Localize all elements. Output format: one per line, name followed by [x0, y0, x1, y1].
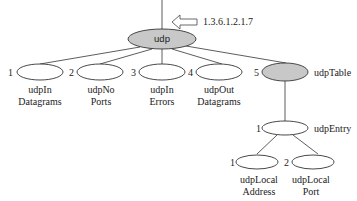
node-label-line1: udpNo	[87, 84, 114, 95]
left-arrow-icon	[172, 15, 197, 29]
node-udpOutDatagrams: 4 udpOut Datagrams	[188, 64, 242, 107]
node-oval	[262, 63, 308, 81]
node-udpNoPorts: 2 udpNo Ports	[69, 64, 123, 107]
node-oval	[262, 121, 308, 135]
node-label-line2: Datagrams	[197, 96, 240, 107]
node-oval	[236, 155, 278, 169]
node-index: 4	[188, 67, 193, 78]
node-udp-label: udp	[154, 33, 170, 44]
node-label-line1: udpIn	[28, 84, 51, 95]
edge-entry-child-1	[257, 135, 277, 154]
node-index: 2	[284, 157, 289, 168]
node-label-line2: Errors	[150, 96, 175, 107]
node-udpInErrors: 3 udpIn Errors	[131, 64, 185, 107]
node-udpTable: 5 udpTable	[254, 63, 352, 81]
node-label: udpEntry	[314, 123, 351, 134]
node-label-line2: Address	[243, 186, 276, 197]
node-udp: udp	[128, 29, 196, 49]
node-udpLocalAddress: 1 udpLocal Address	[230, 155, 278, 197]
node-label-line1: udpLocal	[240, 174, 278, 185]
node-label-line2: Datagrams	[18, 96, 61, 107]
mib-tree-diagram: 1.3.6.1.2.1.7 udp 1 udpIn Datagrams 2 ud…	[0, 0, 357, 201]
node-index: 3	[131, 67, 136, 78]
node-index: 1	[8, 67, 13, 78]
node-index: 1	[230, 157, 235, 168]
oid-pointer: 1.3.6.1.2.1.7	[172, 15, 253, 29]
node-label-line1: udpLocal	[292, 174, 330, 185]
node-oval	[77, 64, 123, 80]
edge-udp-child-1	[40, 47, 140, 64]
node-label-line1: udpOut	[204, 84, 234, 95]
node-label-line1: udpIn	[150, 84, 173, 95]
node-index: 2	[69, 67, 74, 78]
node-oval	[139, 64, 185, 80]
node-index: 1	[256, 123, 261, 134]
node-udpEntry: 1 udpEntry	[256, 121, 351, 135]
node-oval	[196, 64, 242, 80]
node-udpInDatagrams: 1 udpIn Datagrams	[8, 64, 63, 107]
node-oval	[17, 64, 63, 80]
node-label-line2: Port	[303, 186, 320, 197]
node-udpLocalPort: 2 udpLocal Port	[284, 155, 334, 197]
oid-label: 1.3.6.1.2.1.7	[203, 16, 253, 27]
node-label-line2: Ports	[91, 96, 112, 107]
edge-entry-child-2	[293, 135, 318, 154]
node-label: udpTable	[314, 67, 352, 78]
node-oval	[292, 155, 334, 169]
edge-udp-child-5	[186, 46, 286, 63]
node-index: 5	[254, 67, 259, 78]
edge-udp-child-2	[100, 49, 152, 64]
